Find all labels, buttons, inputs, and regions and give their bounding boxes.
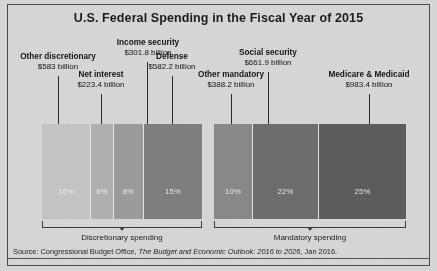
group-label-discretionary: Discretionary spending bbox=[42, 233, 202, 242]
bar-pct-social-security: 22% bbox=[278, 187, 294, 196]
bar-group-discretionary: 16% 6% 8% 15% bbox=[42, 124, 202, 219]
bracket-tick-mandatory bbox=[307, 227, 313, 231]
callout-label-other-mandatory: Other mandatory bbox=[176, 70, 286, 80]
callout-amount-other-mandatory: $388.2 billion bbox=[176, 80, 286, 89]
bracket-mandatory bbox=[214, 221, 406, 228]
bracket-tick-discretionary bbox=[119, 227, 125, 231]
leader-defense bbox=[172, 76, 173, 124]
callout-other-mandatory: Other mandatory $388.2 billion bbox=[176, 70, 286, 89]
bar-pct-income-security: 8% bbox=[123, 187, 134, 196]
callout-social-security: Social security $661.9 billion bbox=[208, 48, 328, 67]
leader-other-mandatory bbox=[231, 94, 232, 124]
bar-pct-defense: 15% bbox=[165, 187, 181, 196]
leader-medicare-medicaid bbox=[369, 94, 370, 124]
callout-label-social-security: Social security bbox=[208, 48, 328, 58]
callout-amount-social-security: $661.9 billion bbox=[208, 58, 328, 67]
group-label-mandatory: Mandatory spending bbox=[214, 233, 406, 242]
source-divider bbox=[8, 258, 429, 259]
bar-medicare-medicaid[interactable]: 25% bbox=[319, 124, 406, 219]
source-note: Source: Congressional Budget Office, The… bbox=[13, 247, 337, 256]
bar-other-discretionary[interactable]: 16% bbox=[42, 124, 91, 219]
source-prefix: Source: Congressional Budget Office, bbox=[13, 247, 139, 256]
callout-net-interest: Net interest $223.4 billion bbox=[46, 70, 156, 89]
leader-net-interest bbox=[101, 94, 102, 124]
bar-pct-other-mandatory: 10% bbox=[225, 187, 241, 196]
bar-pct-medicare-medicaid: 25% bbox=[355, 187, 371, 196]
chart-title: U.S. Federal Spending in the Fiscal Year… bbox=[0, 11, 437, 25]
bar-other-mandatory[interactable]: 10% bbox=[214, 124, 253, 219]
chart-figure: U.S. Federal Spending in the Fiscal Year… bbox=[0, 0, 437, 271]
bar-group-mandatory: 10% 22% 25% bbox=[214, 124, 406, 219]
callout-label-other-discretionary: Other discretionary bbox=[3, 52, 113, 62]
source-publication: The Budget and Economic Outlook: 2016 to… bbox=[139, 247, 301, 256]
callout-label-medicare-medicaid: Medicare & Medicaid bbox=[307, 70, 431, 80]
bar-net-interest[interactable]: 6% bbox=[91, 124, 114, 219]
source-suffix: , Jan 2016. bbox=[300, 247, 337, 256]
callout-label-net-interest: Net interest bbox=[46, 70, 156, 80]
callout-other-discretionary: Other discretionary $583 billion bbox=[3, 52, 113, 71]
bar-social-security[interactable]: 22% bbox=[253, 124, 319, 219]
bracket-discretionary bbox=[42, 221, 202, 228]
callout-amount-medicare-medicaid: $983.4 billion bbox=[307, 80, 431, 89]
bar-pct-net-interest: 6% bbox=[96, 187, 107, 196]
callout-amount-net-interest: $223.4 billion bbox=[46, 80, 156, 89]
callout-medicare-medicaid: Medicare & Medicaid $983.4 billion bbox=[307, 70, 431, 89]
bar-income-security[interactable]: 8% bbox=[114, 124, 144, 219]
callout-label-income-security: Income security bbox=[88, 38, 208, 48]
bar-pct-other-discretionary: 16% bbox=[58, 187, 74, 196]
bar-defense[interactable]: 15% bbox=[144, 124, 202, 219]
